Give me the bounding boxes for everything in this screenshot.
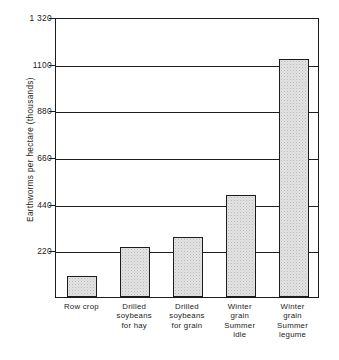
bar-4 [279, 59, 309, 297]
bar-0 [67, 276, 97, 297]
plot-area [55, 18, 319, 298]
y-tick-label-1100: 1100 [8, 60, 52, 70]
y-tick-label-660: 660 [8, 153, 52, 163]
y-tick-label-880: 880 [8, 106, 52, 116]
y-tick-label-220: 220 [8, 246, 52, 256]
x-category-label-4: Winter grain Summer legume [266, 302, 319, 340]
x-category-label-2: Drilled soybeans for grain [161, 302, 214, 330]
bar-1 [120, 247, 150, 297]
y-tick-label-1320: 1 320 [8, 13, 52, 23]
x-category-label-0: Row crop [55, 302, 108, 311]
bar-2 [173, 237, 203, 297]
bar-chart-figure: Earthworms per hectare (thousands) 22044… [0, 0, 339, 360]
y-tick-label-440: 440 [8, 200, 52, 210]
x-category-label-3: Winter grain Summer idle [213, 302, 266, 340]
bar-3 [226, 195, 256, 297]
x-category-label-1: Drilled soybeans for hay [108, 302, 161, 330]
